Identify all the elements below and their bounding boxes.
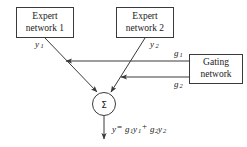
y2-symbol: y: [149, 39, 154, 49]
g2-symbol: g: [174, 79, 179, 89]
expert-network-2-node: Expert network 2: [117, 8, 174, 38]
output-equals: =: [117, 122, 122, 132]
expert-network-1-label-line1: Expert: [32, 11, 58, 21]
gating-network-node: Gating network: [190, 55, 243, 84]
diagram-canvas: Expert network 1 Expert network 2 Gating…: [0, 0, 247, 147]
gating-g1-label: g 1: [174, 48, 183, 58]
gating-g2-label: g 2: [174, 79, 184, 89]
g2-subscript: 2: [180, 82, 184, 89]
expert2-output-label: y 2: [149, 39, 160, 49]
output-term2-var-sub: 2: [163, 127, 167, 134]
g1-subscript: 1: [180, 51, 183, 58]
g1-symbol: g: [174, 48, 179, 58]
expert-network-2-label-line1: Expert: [132, 11, 158, 21]
output-term1-var: y: [132, 124, 137, 134]
mixture-of-experts-diagram: Expert network 1 Expert network 2 Gating…: [0, 0, 247, 147]
output-plus: +: [142, 121, 147, 131]
gating-network-label-line2: network: [200, 69, 231, 79]
expert-network-1-node: Expert network 1: [17, 8, 74, 38]
output-term2-var: y: [157, 124, 162, 134]
expert-network-1-label-line2: network 1: [26, 23, 65, 33]
summation-node: Σ: [93, 93, 116, 116]
output-equation: y = g 1 y 1 + g 2 y 2: [111, 121, 167, 134]
edge-expert2-to-sum: [111, 38, 145, 92]
y1-subscript: 1: [41, 42, 44, 49]
output-term1-var-sub: 1: [138, 127, 141, 134]
gating-network-label-line1: Gating: [203, 57, 229, 67]
output-var: y: [111, 124, 116, 134]
edge-expert1-to-sum: [45, 38, 97, 92]
expert-network-2-label-line2: network 2: [126, 23, 165, 33]
expert1-output-label: y 1: [34, 39, 44, 49]
y1-symbol: y: [34, 39, 39, 49]
summation-sigma-symbol: Σ: [101, 100, 107, 110]
y2-subscript: 2: [156, 42, 160, 49]
